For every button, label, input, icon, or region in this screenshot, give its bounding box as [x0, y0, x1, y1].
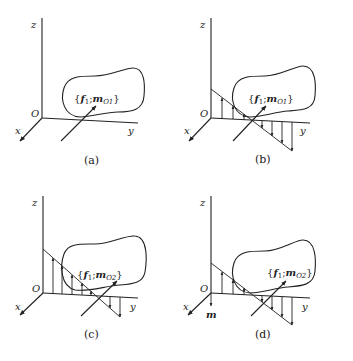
origin-label: O: [32, 283, 40, 294]
y-axis: [43, 293, 138, 298]
x-axis-label: x: [15, 301, 21, 312]
x-axis-label: x: [184, 125, 190, 136]
x-axis: [189, 118, 211, 141]
x-axis-label: x: [15, 125, 21, 136]
y-axis: [211, 118, 310, 123]
caption-d: (d): [255, 328, 271, 341]
origin-label: O: [31, 108, 39, 119]
origin-label: O: [200, 108, 208, 119]
moment-label: m: [206, 309, 217, 320]
z-axis-label: z: [30, 19, 37, 30]
y-axis-label: y: [129, 301, 136, 312]
z-axis-label: z: [31, 197, 38, 208]
caption-b: (b): [255, 153, 271, 166]
y-axis-label: y: [299, 125, 306, 136]
x-axis-label: x: [183, 301, 189, 312]
panel-d: z y x O m {f1;mO2} (d): [183, 196, 315, 341]
y-axis-label: y: [301, 301, 308, 312]
caption-a: (a): [84, 154, 99, 167]
x-axis: [20, 293, 43, 315]
origin-label: O: [200, 283, 208, 294]
panel-b: z y x O {f1;mO1} (b): [184, 18, 315, 166]
caption-c: (c): [84, 328, 99, 341]
resultant-arrow: [251, 281, 286, 316]
load-label: {f1;mO2}: [267, 267, 313, 280]
figure: z y x O {f1;mO1} (a) z y x O: [0, 0, 353, 361]
y-axis-label: y: [127, 125, 134, 136]
y-axis: [42, 118, 138, 123]
distribution-line: [43, 249, 120, 317]
rigid-body-outline: [62, 236, 146, 290]
load-label: {f1;mO1}: [74, 93, 120, 106]
panel-c: z y x O {f1;mO2} (c): [15, 196, 146, 341]
panel-a: z y x O {f1;mO1} (a): [15, 18, 144, 167]
resultant-arrow: [81, 281, 117, 316]
rigid-body-outline: [233, 66, 316, 117]
load-label: {f1;mO2}: [77, 269, 123, 282]
z-axis-label: z: [199, 19, 206, 30]
x-axis: [20, 118, 42, 141]
load-label: {f1;mO1}: [248, 93, 294, 106]
y-axis: [211, 293, 310, 298]
z-axis-label: z: [199, 197, 206, 208]
resultant-arrow: [61, 106, 96, 141]
